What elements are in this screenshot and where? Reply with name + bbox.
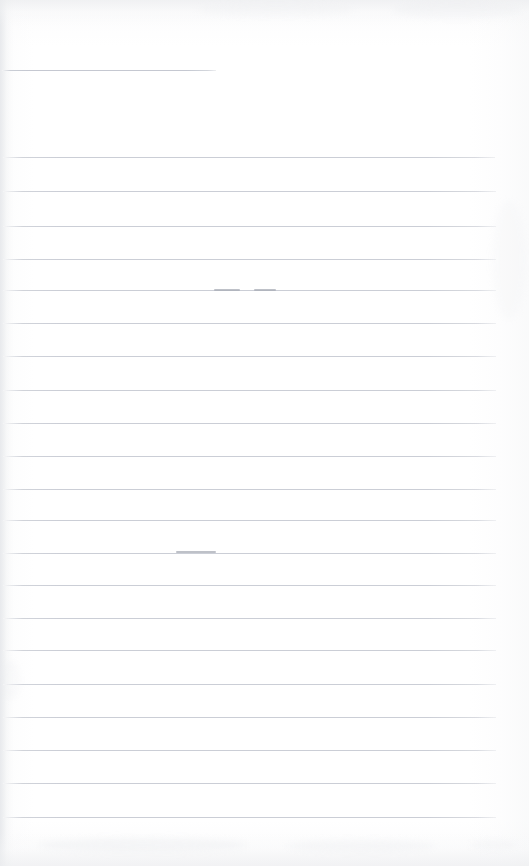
pencil-mark bbox=[176, 551, 216, 553]
rule-line bbox=[3, 520, 496, 521]
rule-line bbox=[3, 684, 496, 685]
rule-line bbox=[3, 783, 496, 784]
rule-line bbox=[3, 356, 496, 357]
rule-line bbox=[3, 259, 496, 260]
rule-line bbox=[3, 553, 496, 554]
rule-line bbox=[3, 323, 496, 324]
rule-line bbox=[3, 290, 496, 291]
rule-line bbox=[3, 191, 496, 192]
notebook-page bbox=[0, 0, 529, 866]
rule-line bbox=[3, 817, 496, 818]
rule-line bbox=[3, 390, 496, 391]
rule-line bbox=[3, 618, 496, 619]
pencil-mark bbox=[214, 289, 240, 291]
rule-line bbox=[3, 157, 495, 158]
rule-line bbox=[3, 717, 496, 718]
rule-line bbox=[3, 750, 496, 751]
pencil-mark bbox=[254, 289, 276, 291]
rule-line bbox=[3, 489, 496, 490]
header-rule-line bbox=[2, 70, 216, 71]
rule-line bbox=[3, 585, 496, 586]
rule-line bbox=[3, 456, 496, 457]
rule-line bbox=[3, 423, 496, 424]
rule-line bbox=[3, 226, 496, 227]
rule-line bbox=[3, 650, 496, 651]
paper-surface bbox=[0, 0, 529, 866]
